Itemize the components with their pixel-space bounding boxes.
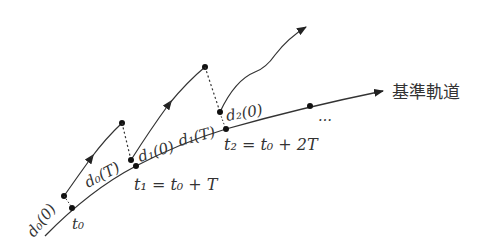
diagram-svg: 基準軌道 … t₀ t₁ = t₀ + T t₂ = t₀ + 2T d₀(0)… [0,0,493,251]
label-t2: t₂ = t₀ + 2T [224,135,319,154]
point-t0 [69,205,75,211]
renormalize-dotted-2 [205,67,220,112]
label-d2-0: d₂(0) [225,101,265,125]
perturbed-trajectory-3 [220,27,306,112]
reference-orbit-curve [45,91,383,236]
orbit-deviation-diagram: 基準軌道 … t₀ t₁ = t₀ + T t₂ = t₀ + 2T d₀(0)… [0,0,493,251]
label-t1: t₁ = t₀ + T [134,175,219,194]
trajectory-2-start [128,157,134,163]
reference-orbit-label: 基準軌道 [392,82,460,102]
point-t2 [223,126,229,132]
label-d1-T: d₁(T) [176,123,217,150]
label-d1-0: d₁(0) [136,137,177,166]
ellipsis: … [318,108,332,124]
point-t3 [307,103,313,109]
point-t1 [133,163,139,169]
label-d0-0: d₀(0) [23,200,60,240]
trajectory-3-start [217,109,223,115]
label-t0: t₀ [72,215,84,233]
renormalize-dotted-1 [122,123,131,160]
